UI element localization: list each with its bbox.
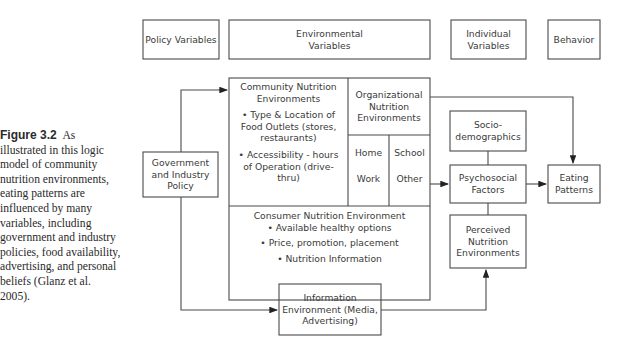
psychosocial-factors-box: Psychosocial Factors <box>450 165 526 203</box>
eating-patterns-box: Eating Patterns <box>548 165 600 203</box>
consumer-bullet-3: • Nutrition Information <box>277 253 382 265</box>
community-nutrition-box: Community Nutrition Environments • Type … <box>229 81 348 206</box>
community-bullet-1: • Type & Location of Food Outlets (store… <box>229 109 348 144</box>
government-policy-box: Government and Industry Policy <box>143 152 218 197</box>
org-cell-work: Work <box>348 166 389 191</box>
org-cell-school: School <box>389 140 430 165</box>
community-bullet-2: • Accessibility - hours of Operation (dr… <box>229 149 348 184</box>
consumer-bullet-1: • Available healthy options <box>267 222 391 234</box>
org-cell-other: Other <box>389 166 430 191</box>
information-environment-box: Information Environment (Media, Advertis… <box>279 284 381 335</box>
consumer-bullet-2: • Price, promotion, placement <box>260 237 398 249</box>
consumer-title: Consumer Nutrition Environment <box>254 210 406 222</box>
sociodemographics-box: Socio-demographics <box>450 111 526 151</box>
behavior-label: Behavior <box>548 20 600 59</box>
community-title: Community Nutrition Environments <box>229 81 348 104</box>
perceived-nutrition-box: Perceived Nutrition Environments <box>450 215 526 268</box>
org-cell-home: Home <box>348 140 389 165</box>
individual-variables-label: Individual Variables <box>451 20 526 59</box>
policy-variables-label: Policy Variables <box>143 20 219 59</box>
environmental-variables-label: Environmental Variables <box>229 20 430 59</box>
organizational-nutrition-title: Organizational Nutrition Environments <box>348 78 430 135</box>
